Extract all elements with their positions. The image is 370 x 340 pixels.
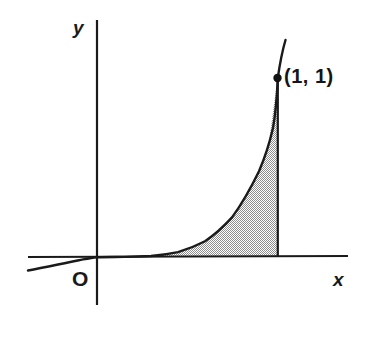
graph-figure: y x O (1, 1) [0, 0, 370, 340]
point-marker-1-1 [273, 74, 281, 82]
point-coordinate-label: (1, 1) [284, 66, 334, 86]
plot-canvas [0, 0, 370, 340]
origin-label: O [72, 268, 88, 289]
x-axis-label: x [333, 270, 344, 289]
shaded-area-under-curve [97, 78, 278, 257]
y-axis-label: y [73, 18, 84, 37]
x-axis [28, 256, 348, 257]
